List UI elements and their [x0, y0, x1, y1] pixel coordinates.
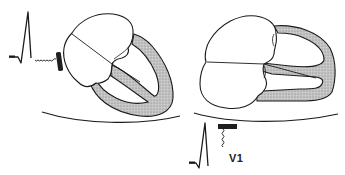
heart-ecg-diagram	[0, 0, 345, 175]
left-electrode	[56, 52, 64, 72]
right-panel	[189, 16, 338, 168]
right-chest-wall-arc	[194, 113, 338, 121]
v1-lead-wire	[222, 129, 224, 147]
left-panel	[9, 12, 180, 122]
v1-electrode	[218, 124, 237, 129]
v1-ecg-waveform	[189, 123, 208, 168]
lead-v1-label: V1	[229, 152, 243, 164]
left-lead-wire	[35, 59, 56, 61]
left-ecg-waveform	[9, 12, 31, 63]
